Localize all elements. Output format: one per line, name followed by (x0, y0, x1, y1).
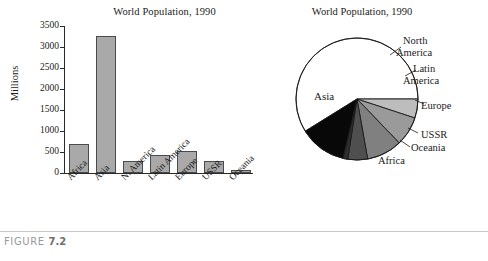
y-tick-mark-3500 (60, 26, 65, 27)
y-tick-mark-3000 (60, 47, 65, 48)
y-tick-mark-500 (60, 152, 65, 153)
pie-chart-title: World Population, 1990 (272, 6, 452, 17)
y-tick-mark-2000 (60, 89, 65, 90)
pie-label-africa: Africa (378, 155, 405, 167)
pie-label-north-america-line1: North (403, 35, 428, 47)
y-tick-mark-2500 (60, 68, 65, 69)
bar-chart-panel: World Population, 1990 Millions 3500 300… (0, 0, 268, 215)
y-tick-mark-1500 (60, 110, 65, 111)
y-tick-3500: 3500 (40, 20, 59, 30)
bar-chart-plot-area (64, 26, 252, 173)
y-tick-1000: 1000 (40, 125, 59, 135)
bar-asia (96, 36, 116, 173)
figure-caption-number: 7.2 (48, 236, 66, 247)
pie-label-europe: Europe (421, 100, 451, 112)
bar-chart-x-tick-labels: Africa Asia N. America Latin America Eur… (64, 175, 264, 217)
y-tick-1500: 1500 (40, 104, 59, 114)
pie-label-latin-america-line2: America (403, 75, 439, 87)
bar-chart-y-tick-labels: 3500 3000 2500 2000 1500 1000 500 0 (0, 26, 59, 174)
y-tick-0: 0 (54, 167, 59, 177)
y-tick-2500: 2500 (40, 62, 59, 72)
pie-label-latin-america-line1: Latin (413, 63, 435, 75)
caption-divider (0, 231, 488, 232)
pie-chart-panel: World Population, 1990 Asia North Americ… (268, 0, 488, 215)
y-tick-mark-1000 (60, 131, 65, 132)
pie-label-oceania: Oceania (411, 142, 445, 154)
figure-caption-prefix: FIGURE (4, 236, 45, 247)
pie-label-ussr: USSR (421, 129, 447, 141)
figure-caption: FIGURE 7.2 (4, 236, 66, 247)
pie-label-north-america-line2: America (396, 47, 432, 59)
y-tick-3000: 3000 (40, 41, 59, 51)
pie-label-asia: Asia (314, 91, 334, 103)
bar-chart-title: World Population, 1990 (72, 6, 257, 17)
y-tick-500: 500 (45, 146, 59, 156)
y-tick-2000: 2000 (40, 83, 59, 93)
figure-7-2: World Population, 1990 Millions 3500 300… (0, 0, 488, 261)
